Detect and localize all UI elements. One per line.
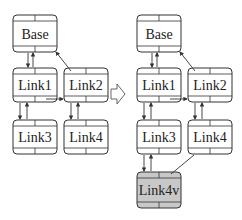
node-label: Base	[21, 27, 48, 42]
node-label: Link2	[69, 78, 102, 93]
node-base-after: Base	[137, 15, 181, 52]
node-link1-after: Link1	[137, 68, 181, 102]
node-label: Link1	[18, 78, 51, 93]
diagram-canvas: BaseLink1Link2Link3Link4BaseLink1Link2Li…	[0, 0, 242, 220]
node-label: Link4	[69, 130, 102, 145]
hollow-right-arrow-icon	[111, 84, 125, 104]
node-link2-before: Link2	[64, 68, 108, 102]
node-label: Link4	[193, 130, 226, 145]
node-label: Link1	[142, 78, 175, 93]
node-label: Link3	[142, 130, 175, 145]
node-label: Base	[145, 27, 172, 42]
node-label: Link2	[193, 78, 226, 93]
node-base-before: Base	[13, 15, 57, 52]
node-link4v-after: Link4v	[137, 172, 181, 208]
node-link3-after: Link3	[137, 120, 181, 154]
node-link4-after: Link4	[188, 120, 232, 154]
edge-link4-link4v	[171, 155, 194, 174]
edge-link2-base-after	[180, 52, 195, 71]
node-link3-before: Link3	[13, 120, 57, 154]
edge-link2-base	[56, 52, 71, 71]
node-link4-before: Link4	[64, 120, 108, 154]
node-label: Link3	[18, 130, 51, 145]
node-link1-before: Link1	[13, 68, 57, 102]
node-link2-after: Link2	[188, 68, 232, 102]
node-label: Link4v	[139, 183, 179, 198]
